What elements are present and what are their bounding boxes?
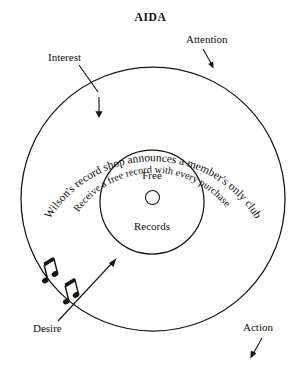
callout-label-desire: Desire: [33, 322, 62, 334]
callout-label-interest: Interest: [48, 51, 81, 63]
callout-label-attention: Attention: [186, 33, 228, 45]
arrow-down-right-icon: [203, 49, 214, 69]
ring-pointer-arrow-icon: [95, 97, 102, 118]
aida-diagram: AIDA Wilson's record shop announces a me…: [0, 0, 301, 374]
center-label-line2: Records: [134, 220, 170, 232]
center-label-line1: Free: [142, 169, 162, 181]
arrow-down-left-icon: [250, 338, 262, 359]
page-title: AIDA: [135, 11, 167, 23]
callout-label-action: Action: [243, 321, 273, 333]
diagram-canvas: AIDA Wilson's record shop announces a me…: [0, 0, 301, 374]
record-hole-icon: [146, 191, 160, 205]
